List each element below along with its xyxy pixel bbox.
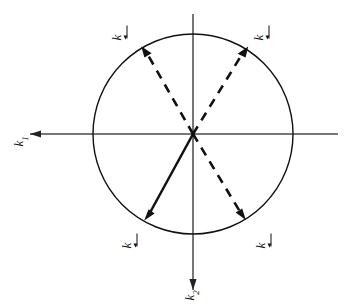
k2-axis-label-subscript: 2 bbox=[191, 290, 201, 295]
wave-vector-diagram bbox=[0, 0, 348, 308]
vector-underarrow-icon bbox=[267, 35, 273, 41]
k2-axis-label-text: k bbox=[182, 295, 197, 301]
k1-axis-label-text: k bbox=[11, 141, 26, 147]
vector-k-lower-left-shaft bbox=[150, 134, 194, 214]
vector-k-upper-left-arrowhead-icon bbox=[141, 46, 151, 57]
vector-k-lower-right-arrowhead-icon bbox=[236, 208, 246, 220]
vector-k-upper-right-arrowhead-icon bbox=[238, 47, 249, 58]
vector-label-k-upper-left: k bbox=[108, 19, 131, 41]
vector-k-upper-right-shaft bbox=[193, 54, 243, 135]
vector-k-lower-left-arrowhead-icon bbox=[144, 209, 154, 220]
vector-underarrow-icon bbox=[269, 243, 275, 249]
k2-axis-label: k2 bbox=[181, 275, 200, 301]
vector-k-upper-right bbox=[193, 47, 248, 134]
vector-k-lower-right bbox=[193, 134, 246, 220]
vector-label-k-lower-right: k bbox=[252, 227, 275, 249]
vector-label-k-lower-left-text: k bbox=[119, 243, 134, 249]
vector-k-lower-right-shaft bbox=[193, 134, 241, 213]
k1-axis bbox=[30, 130, 338, 137]
figure-root: k1 k2 k k k bbox=[0, 0, 348, 308]
k2-axis bbox=[189, 14, 196, 290]
vector-underarrow-icon bbox=[135, 243, 141, 249]
k1-axis-arrowhead-icon bbox=[30, 130, 41, 137]
vector-k-upper-left-shaft bbox=[147, 53, 194, 135]
vector-label-k-upper-right-text: k bbox=[251, 35, 266, 41]
vector-label-k-lower-right-text: k bbox=[253, 243, 268, 249]
k1-axis-label-subscript: 1 bbox=[20, 136, 30, 141]
vector-label-k-upper-right: k bbox=[250, 19, 273, 41]
vector-label-k-lower-left: k bbox=[118, 227, 141, 249]
vector-label-k-upper-left-text: k bbox=[109, 35, 124, 41]
k1-axis-label: k1 bbox=[10, 121, 29, 147]
vector-underarrow-icon bbox=[125, 35, 131, 41]
vector-k-lower-left bbox=[144, 134, 193, 220]
vector-k-upper-left bbox=[141, 46, 193, 134]
